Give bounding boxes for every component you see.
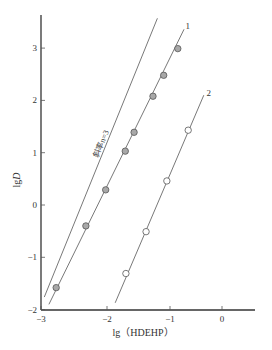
data-point-series-1 — [122, 148, 128, 154]
annotation-label: 斜率n=3 — [91, 129, 111, 159]
annotation-label: 1 — [186, 21, 191, 31]
x-tick-label: −1 — [165, 314, 175, 324]
data-point-series-1 — [150, 93, 156, 99]
data-point-series-2 — [164, 178, 170, 184]
ticks: −3−2−10−2−10123 — [27, 43, 224, 324]
chart: −3−2−10−2−10123 12斜率n=3 lg（HDEHP） lgD — [0, 0, 272, 350]
y-tick-label: 3 — [33, 43, 38, 53]
fit-line-series-1 — [49, 29, 184, 304]
slope-reference-line — [44, 18, 157, 297]
data-point-series-1 — [83, 223, 89, 229]
data-point-series-2 — [123, 270, 129, 276]
fit-lines — [44, 18, 204, 304]
y-tick-label: 0 — [33, 200, 38, 210]
y-axis-label-lg: lg — [11, 180, 22, 188]
data-point-series-2 — [143, 228, 149, 234]
data-point-series-1 — [131, 129, 137, 135]
y-tick-label: −2 — [27, 305, 37, 315]
data-point-series-1 — [161, 72, 167, 78]
x-tick-label: −2 — [102, 314, 112, 324]
x-tick-label: 0 — [220, 314, 225, 324]
y-tick-label: 2 — [33, 95, 38, 105]
axes — [41, 15, 255, 310]
y-tick-label: −1 — [27, 252, 37, 262]
x-tick-label: −3 — [36, 314, 46, 324]
y-axis-label: lgD — [11, 172, 22, 188]
y-tick-label: 1 — [33, 148, 38, 158]
data-point-series-1 — [175, 45, 181, 51]
x-axis-label: lg（HDEHP） — [112, 327, 173, 338]
annotation-label: 2 — [206, 88, 211, 98]
data-point-series-1 — [102, 187, 108, 193]
y-axis-label-D: D — [11, 172, 22, 181]
data-point-series-1 — [53, 284, 59, 290]
data-point-series-2 — [185, 127, 191, 133]
